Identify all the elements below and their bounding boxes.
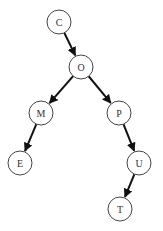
node-c: C	[47, 10, 71, 34]
edge-p-u	[123, 124, 134, 151]
node-label: O	[77, 62, 84, 73]
node-label: P	[116, 108, 122, 119]
node-e: E	[8, 151, 32, 175]
tree-diagram: COMPEUT	[0, 0, 163, 231]
edge-u-t	[125, 174, 134, 197]
node-label: E	[17, 158, 23, 169]
node-u: U	[127, 151, 151, 175]
node-m: M	[29, 101, 53, 125]
node-label: U	[135, 158, 143, 169]
nodes: COMPEUT	[8, 10, 151, 221]
node-p: P	[107, 101, 131, 125]
edge-o-p	[89, 76, 111, 103]
edge-c-o	[64, 33, 75, 56]
edge-o-m	[50, 76, 74, 103]
edge-m-e	[25, 124, 36, 151]
node-o: O	[69, 55, 93, 79]
node-label: M	[37, 108, 46, 119]
node-label: T	[117, 204, 123, 215]
node-label: C	[56, 17, 63, 28]
node-t: T	[108, 197, 132, 221]
